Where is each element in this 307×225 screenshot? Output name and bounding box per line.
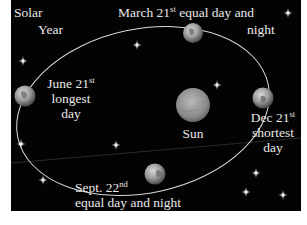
dec-suffix: st xyxy=(289,109,295,119)
dec-line2: shortest xyxy=(245,125,301,140)
sept-suffix: nd xyxy=(119,179,128,189)
earth-sept-icon xyxy=(145,164,166,185)
earth-dec-icon xyxy=(253,88,274,109)
earth-march-icon xyxy=(183,23,203,43)
sun-icon xyxy=(176,88,210,122)
march-date: March 21 xyxy=(118,5,170,20)
june-date: June 21 xyxy=(47,76,89,91)
june-line3: day xyxy=(41,106,101,121)
label-sept: Sept. 22nd xyxy=(75,180,128,195)
june-suffix: st xyxy=(89,75,95,85)
title-line-2: Year xyxy=(38,22,63,37)
earth-june-icon xyxy=(15,86,36,107)
dec-line3: day xyxy=(245,140,301,155)
label-sept-line2: equal day and night xyxy=(75,195,181,210)
title-line-1: Solar xyxy=(14,5,43,20)
sept-date: Sept. 22 xyxy=(75,180,119,195)
diagram-panel: Solar Year March 21st equal day and nigh… xyxy=(11,0,301,211)
label-march: March 21st equal day and xyxy=(118,5,254,20)
dec-date: Dec 21 xyxy=(251,110,290,125)
label-dec: Dec 21st shortest day xyxy=(245,110,301,155)
june-line2: longest xyxy=(41,91,101,106)
march-desc: equal day and xyxy=(176,5,254,20)
label-sun: Sun xyxy=(174,126,212,141)
label-march-line2: night xyxy=(247,22,275,37)
label-june: June 21st longest day xyxy=(41,76,101,121)
